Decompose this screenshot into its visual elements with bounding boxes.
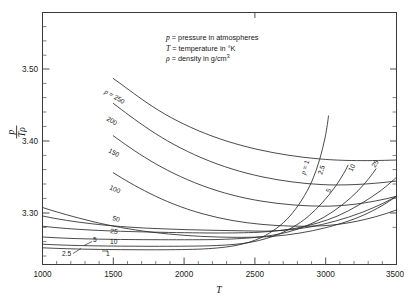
y-axis-right-ticks bbox=[390, 69, 397, 227]
curve-label-right-1: p = 1 bbox=[299, 159, 310, 176]
legend-line-temperature: T = temperature in °K bbox=[166, 44, 236, 53]
curve-label-right-10-value: 10 bbox=[347, 162, 357, 172]
curve-label-5-value: 5 bbox=[93, 236, 97, 243]
curve-label-100-value: 100 bbox=[109, 184, 122, 195]
curve-labels-left: p = 250 200 150 100 50 25 10 5 bbox=[62, 87, 126, 257]
legend-text-p: = pressure in atmospheres bbox=[170, 33, 259, 42]
curve-label-200: 200 bbox=[106, 115, 119, 127]
x-tick-label-3000: 3000 bbox=[317, 270, 336, 279]
x-axis-title: T bbox=[216, 285, 222, 295]
curve-label-2-5-value: 2.5 bbox=[62, 250, 71, 257]
curve-label-150-value: 150 bbox=[108, 147, 121, 159]
legend-block: p = pressure in atmospheres T = temperat… bbox=[165, 33, 259, 63]
legend-text-rho: = density in g/cm bbox=[170, 54, 227, 63]
legend-line-density: ρ = density in g/cm3 bbox=[165, 53, 230, 63]
curve-label-25-value: 25 bbox=[110, 227, 119, 235]
curve-label-right-25: 25 bbox=[370, 158, 380, 168]
chart-figure: 1000 1500 2000 2500 3000 3500 T 3.50 3.4… bbox=[0, 0, 414, 300]
curve-labels-right: p = 1 2.5 5 10 25 bbox=[299, 158, 380, 193]
curve-label-50-value: 50 bbox=[112, 214, 121, 223]
curve-label-2-5: 2.5 bbox=[62, 250, 71, 257]
curve-group bbox=[43, 79, 397, 250]
curve-label-250-value: 250 bbox=[113, 93, 126, 105]
y-axis-major-ticks bbox=[43, 69, 50, 213]
curve-p-150 bbox=[113, 136, 396, 206]
y-axis-title: p Tρ bbox=[6, 126, 28, 139]
curve-label-100: 100 bbox=[109, 184, 122, 195]
x-tick-label-1000: 1000 bbox=[33, 270, 52, 279]
svg-text:p = 250: p = 250 bbox=[103, 87, 127, 105]
curve-p-5 bbox=[43, 169, 377, 240]
curve-label-right-1-value: 1 bbox=[302, 159, 310, 165]
legend-text-T: = temperature in °K bbox=[170, 44, 235, 53]
curve-label-10-value: 10 bbox=[110, 238, 118, 245]
y-axis-title-numerator: p bbox=[6, 129, 16, 135]
y-tick-label-340: 3.40 bbox=[22, 137, 38, 146]
curve-p-100 bbox=[113, 173, 396, 226]
svg-text:p = 1: p = 1 bbox=[299, 159, 310, 176]
curve-label-250: p = 250 bbox=[103, 87, 127, 105]
legend-line-pressure: p = pressure in atmospheres bbox=[165, 33, 259, 42]
legend-text-rho-sup: 3 bbox=[227, 53, 230, 59]
curve-p-50 bbox=[43, 196, 397, 237]
curve-p-250 bbox=[113, 79, 396, 161]
curve-label-10: 10 bbox=[110, 238, 118, 245]
y-tick-label-350: 3.50 bbox=[22, 65, 38, 74]
curve-label-50: 50 bbox=[112, 214, 121, 223]
x-tick-label-2500: 2500 bbox=[246, 270, 265, 279]
x-tick-label-1500: 1500 bbox=[104, 270, 123, 279]
x-tick-label-2000: 2000 bbox=[175, 270, 194, 279]
curve-label-right-5-value: 5 bbox=[324, 187, 332, 193]
curve-label-200-value: 200 bbox=[106, 115, 119, 127]
x-axis-major-ticks bbox=[43, 258, 397, 265]
curve-label-right-25-value: 25 bbox=[370, 158, 380, 168]
curve-label-25: 25 bbox=[110, 227, 119, 235]
x-axis-minor-ticks bbox=[57, 261, 383, 265]
curve-label-right-5: 5 bbox=[324, 187, 332, 193]
curve-p-200 bbox=[113, 103, 396, 185]
curve-label-5: 5 bbox=[93, 236, 97, 243]
curve-label-150: 150 bbox=[108, 147, 121, 159]
curve-label-right-10: 10 bbox=[347, 162, 357, 172]
y-axis-title-denominator: Tρ bbox=[17, 127, 27, 137]
x-tick-label-3500: 3500 bbox=[386, 270, 405, 279]
y-tick-label-330: 3.30 bbox=[22, 209, 38, 218]
